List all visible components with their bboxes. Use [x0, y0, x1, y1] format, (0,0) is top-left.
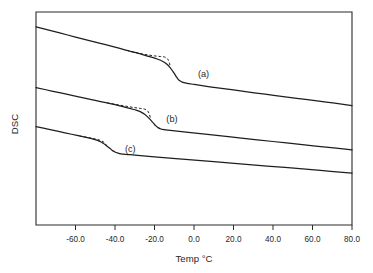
- curve-b-overshoot: [107, 103, 150, 119]
- curve-label-b: (b): [166, 114, 177, 124]
- axis-frame-box: [36, 12, 352, 225]
- curve-a-overshoot: [127, 50, 170, 67]
- x-axis-ticks: [76, 225, 353, 230]
- x-tick-label-2: -20.0: [145, 235, 164, 244]
- x-tick-label-7: 80.0: [344, 235, 360, 244]
- x-tick-label-4: 20.0: [226, 235, 242, 244]
- x-tick-label-1: -40.0: [106, 235, 125, 244]
- x-tick-label-0: -60.0: [66, 235, 85, 244]
- curve-group: [36, 27, 352, 173]
- curve-label-a: (a): [198, 69, 209, 79]
- x-axis-title: Temp °C: [176, 253, 213, 264]
- dsc-thermogram-figure: -60.0-40.0-20.00.020.040.060.080.0 (a)(b…: [0, 0, 373, 273]
- curve-label-c: (c): [125, 144, 136, 154]
- x-tick-label-5: 40.0: [265, 235, 281, 244]
- x-tick-label-6: 60.0: [305, 235, 321, 244]
- chart-svg: -60.0-40.0-20.00.020.040.060.080.0 (a)(b…: [0, 0, 373, 273]
- curve-a: [36, 27, 352, 106]
- x-axis-tick-labels: -60.0-40.0-20.00.020.040.060.080.0: [66, 235, 360, 244]
- y-axis-title: DSC: [9, 114, 20, 134]
- x-tick-label-3: 0.0: [188, 235, 200, 244]
- curve-b: [36, 88, 352, 150]
- plot-frame: [36, 12, 352, 225]
